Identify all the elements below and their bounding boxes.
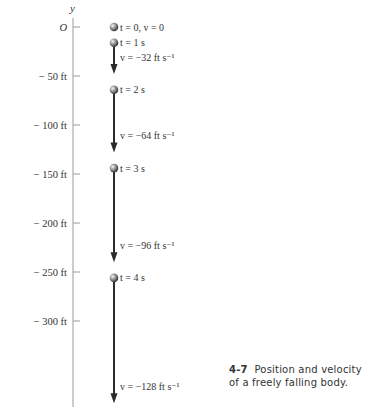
caption-text: Position and velocity of a freely fallin…: [229, 364, 362, 388]
tick-label: − 300 ft: [34, 316, 67, 327]
tick-label: − 150 ft: [34, 169, 67, 180]
ball: [110, 23, 119, 32]
ball: [110, 274, 119, 283]
figure-caption: 4-7 Position and velocity of a freely fa…: [229, 363, 368, 389]
falling-body-diagram: y O− 50 ft− 100 ft− 150 ft− 200 ft− 250 …: [0, 0, 368, 407]
caption-number: 4-7: [229, 364, 248, 375]
velocity-arrows: v = −32 ft s⁻¹v = −64 ft s⁻¹v = −96 ft s…: [111, 43, 180, 404]
velocity-arrowhead: [111, 393, 118, 403]
tick-label: − 100 ft: [34, 120, 67, 131]
time-label: t = 2 s: [120, 84, 145, 95]
velocity-arrowhead: [111, 142, 118, 152]
time-label: t = 1 s: [120, 37, 145, 48]
time-label: t = 3 s: [120, 163, 145, 174]
tick-label: − 200 ft: [34, 218, 67, 229]
time-label: t = 4 s: [120, 272, 145, 283]
tick-label: − 250 ft: [34, 267, 67, 278]
velocity-arrowhead: [111, 252, 118, 262]
velocity-arrowhead: [111, 64, 118, 74]
ball: [110, 164, 119, 173]
tick-label: − 50 ft: [39, 71, 67, 82]
velocity-label: v = −96 ft s⁻¹: [120, 240, 175, 251]
time-label: t = 0, v = 0: [120, 22, 164, 33]
ball: [110, 38, 119, 47]
velocity-label: v = −64 ft s⁻¹: [120, 130, 175, 141]
tick-label: O: [59, 22, 67, 33]
velocity-label: v = −128 ft s⁻¹: [120, 381, 180, 392]
y-axis-label: y: [69, 2, 75, 14]
ball: [110, 85, 119, 94]
velocity-label: v = −32 ft s⁻¹: [120, 52, 175, 63]
